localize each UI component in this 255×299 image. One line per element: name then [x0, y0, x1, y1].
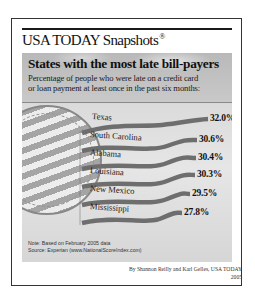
row-label-texas: Texas	[92, 111, 113, 122]
note-text: Note: Based on February 2005 data	[28, 240, 142, 247]
byline-year: 2005	[129, 273, 242, 281]
row-value-south-carolina: 30.6%	[199, 134, 224, 144]
row-value-alabama: 30.4%	[198, 152, 223, 162]
registered-mark: ®	[159, 32, 164, 41]
byline: By Shannon Reilly and Karl Gelles, USA T…	[129, 265, 242, 281]
bar-mississippi	[82, 213, 182, 223]
brand-name: USA TODAY Snapshots	[22, 32, 158, 48]
brand-title: USA TODAY Snapshots®	[22, 32, 165, 49]
source-text: Source: Experian (www.NationalScoreIndex…	[28, 247, 142, 254]
row-value-mississippi: 27.8%	[184, 207, 209, 217]
byline-authors: By Shannon Reilly and Karl Gelles, USA T…	[129, 265, 242, 273]
top-rule	[22, 28, 232, 30]
footnote: Note: Based on February 2005 data Source…	[28, 240, 142, 253]
row-value-new-mexico: 29.5%	[192, 188, 217, 198]
row-value-louisiana: 30.3%	[197, 169, 222, 179]
row-value-texas: 32.0%	[210, 113, 232, 123]
chart-panel: States with the most late bill-payers Pe…	[22, 53, 232, 262]
row-label-alabama: Alabama	[90, 147, 122, 159]
